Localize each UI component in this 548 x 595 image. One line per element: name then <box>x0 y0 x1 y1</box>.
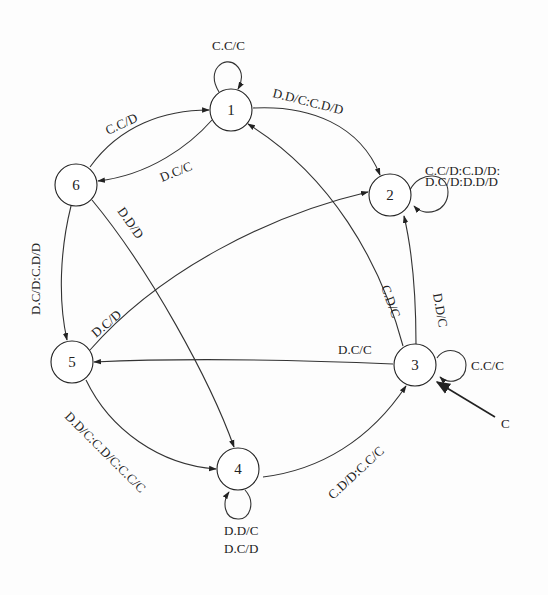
state-node-3: 3 <box>394 344 436 386</box>
edge-label-3-5: D.C/C <box>338 342 372 357</box>
state-node-2: 2 <box>369 174 411 216</box>
edge-label-4-4-line2: D.C/D <box>224 541 258 556</box>
edge-label-4-3: C.D/D:C.C/C <box>325 443 387 502</box>
edge-label-3-3: C.C/C <box>471 358 504 373</box>
edge-1-2 <box>253 108 380 175</box>
state-node-6: 6 <box>55 164 97 206</box>
edge-3-5 <box>94 360 393 364</box>
start-arrow <box>437 382 495 417</box>
edge-label-1-6: D.C/C <box>158 158 195 184</box>
edge-3-1 <box>248 124 403 346</box>
state-node-4: 4 <box>217 448 259 490</box>
edge-label-3-2: D.D/C <box>430 292 451 328</box>
edge-3-2 <box>404 216 416 344</box>
edge-4-3 <box>263 386 406 477</box>
edge-6-1 <box>90 110 209 167</box>
state-label-6: 6 <box>72 177 80 193</box>
edge-label-4-4-line1: D.D/C <box>224 523 258 538</box>
state-node-5: 5 <box>51 341 93 383</box>
edge-label-3-1: C.D/C <box>378 283 404 320</box>
edge-6-5 <box>61 206 71 340</box>
state-label-2: 2 <box>386 187 394 203</box>
state-label-1: 1 <box>227 102 235 118</box>
start-label: C <box>501 416 510 431</box>
edge-label-1-1: C.C/C <box>212 38 245 53</box>
edge-3-3 <box>437 351 466 382</box>
edge-label-5-2: D.C/D <box>88 307 124 341</box>
edge-label-6-5: D.C/D:C.D/D <box>28 243 43 315</box>
edge-label-5-4: D.D/C:C.D/C:C.C/C <box>62 409 149 496</box>
state-label-4: 4 <box>234 461 242 477</box>
edge-label-1-2: D.D/C:C.D/D <box>271 85 345 117</box>
edge-4-4 <box>225 490 251 519</box>
state-diagram: C.C/C D.D/C:C.D/D D.C/C C.C/D C.C/D:C.D/… <box>0 0 548 595</box>
state-label-5: 5 <box>68 354 76 370</box>
state-label-3: 3 <box>411 357 419 373</box>
edge-1-1 <box>214 62 241 92</box>
edge-label-6-1: C.C/D <box>103 110 140 138</box>
state-node-1: 1 <box>210 89 252 131</box>
edge-label-2-2-line2: D.C/D:D.D/D <box>425 174 498 189</box>
